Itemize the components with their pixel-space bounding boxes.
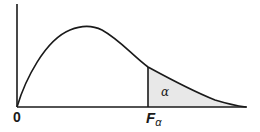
f-distribution-diagram xyxy=(0,0,260,132)
critical-value-subscript: α xyxy=(155,116,161,128)
density-curve xyxy=(17,26,246,107)
critical-value-main: F xyxy=(146,109,155,126)
critical-value-label: Fα xyxy=(146,109,161,128)
area-alpha-label: α xyxy=(161,85,169,99)
origin-label: 0 xyxy=(13,109,21,125)
